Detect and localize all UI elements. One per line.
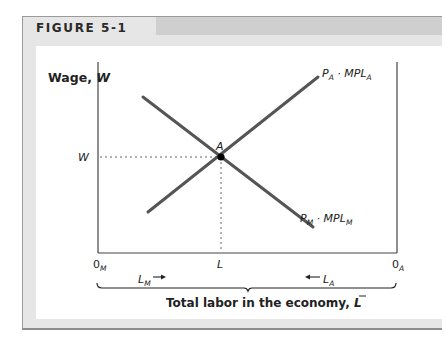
l-tick-label: L bbox=[217, 258, 223, 271]
pa-mpla-label: PA · MPLA bbox=[322, 67, 372, 82]
origin-m-label: 0M bbox=[93, 258, 107, 273]
pa-mpla-line bbox=[148, 77, 318, 212]
la-arrowhead-icon bbox=[305, 275, 310, 280]
lm-arrowhead-icon bbox=[161, 275, 166, 280]
total-labor-label: Total labor in the economy, L bbox=[166, 296, 362, 310]
y-axis-title: Wage, W bbox=[48, 70, 111, 85]
lm-arrow-label: LM bbox=[138, 273, 151, 288]
point-a-label: A bbox=[215, 140, 224, 153]
pm-mplm-label: PM · MPLM bbox=[300, 212, 353, 227]
origin-a-label: 0A bbox=[392, 258, 404, 273]
w-tick-label: W bbox=[78, 151, 90, 164]
pm-mplm-line bbox=[143, 97, 313, 227]
la-arrow-label: LA bbox=[323, 273, 334, 288]
equilibrium-point bbox=[217, 153, 224, 160]
